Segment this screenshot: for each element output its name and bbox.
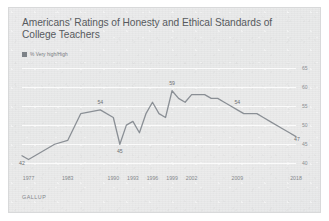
x-axis-tick: 1996 xyxy=(147,175,159,181)
y-axis-tick: 60 xyxy=(302,84,308,90)
x-axis-tick: 1999 xyxy=(166,175,178,181)
y-axis-tick: 55 xyxy=(302,103,308,109)
x-axis-tick: 1983 xyxy=(62,175,74,181)
data-label: 45 xyxy=(117,148,123,154)
x-axis-tick: 1990 xyxy=(108,175,120,181)
x-axis-tick: 1977 xyxy=(23,175,35,181)
chart-card: Americans' Ratings of Honesty and Ethica… xyxy=(8,7,321,213)
x-axis-tick: 2018 xyxy=(290,175,302,181)
y-axis: 404550556065 xyxy=(302,64,321,171)
line-series xyxy=(22,64,296,171)
y-axis-tick: 45 xyxy=(302,141,308,147)
chart-legend: % Very high/High xyxy=(22,52,68,57)
y-axis-tick: 50 xyxy=(302,122,308,128)
legend-label: % Very high/High xyxy=(30,52,68,57)
x-axis-tick: 1993 xyxy=(127,175,139,181)
data-label: 54 xyxy=(97,99,103,105)
x-axis-tick: 2009 xyxy=(232,175,244,181)
x-axis-tick: 2002 xyxy=(186,175,198,181)
data-label: 47 xyxy=(294,136,300,142)
data-label: 42 xyxy=(19,160,25,166)
y-axis-tick: 65 xyxy=(302,65,308,71)
legend-swatch-icon xyxy=(22,52,27,57)
y-axis-tick: 40 xyxy=(302,160,308,166)
plot-area: 425445595447 xyxy=(22,64,296,171)
data-label: 59 xyxy=(169,80,175,86)
source-attribution: GALLUP xyxy=(22,194,46,200)
chart-title: Americans' Ratings of Honesty and Ethica… xyxy=(22,17,298,42)
series-polyline xyxy=(22,91,296,160)
data-label: 54 xyxy=(234,99,240,105)
x-axis: 197719831990199319961999200220092018 xyxy=(22,175,296,186)
